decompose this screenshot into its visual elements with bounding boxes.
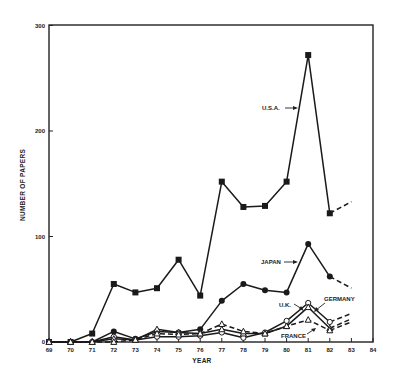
x-tick-label: 80 bbox=[283, 347, 290, 353]
x-tick-label: 81 bbox=[305, 347, 312, 353]
y-tick-label: 100 bbox=[35, 234, 46, 240]
series-usa bbox=[46, 52, 351, 345]
label-germany: GERMANY bbox=[324, 296, 355, 302]
x-tick-label: 84 bbox=[370, 347, 377, 353]
square-marker bbox=[176, 257, 182, 263]
annotation-germany: GERMANY bbox=[314, 296, 355, 312]
square-marker bbox=[219, 179, 225, 185]
open-circle-marker bbox=[327, 319, 332, 324]
line-chart: 0100200300 69707172737475767778798081828… bbox=[0, 0, 396, 380]
x-tick-label: 75 bbox=[175, 347, 182, 353]
y-tick-label: 0 bbox=[42, 339, 46, 345]
plot-frame bbox=[49, 25, 373, 342]
x-tick-label: 78 bbox=[240, 347, 247, 353]
series-layer bbox=[46, 52, 351, 345]
triangle-marker bbox=[219, 321, 225, 327]
x-tick-label: 77 bbox=[218, 347, 225, 353]
x-tick-label: 70 bbox=[67, 347, 74, 353]
x-tick-label: 74 bbox=[154, 347, 161, 353]
square-marker bbox=[132, 289, 138, 295]
square-marker bbox=[197, 293, 203, 299]
square-marker bbox=[111, 281, 117, 287]
circle-marker bbox=[262, 287, 268, 293]
triangle-marker bbox=[305, 317, 311, 323]
arrow-icon bbox=[311, 328, 316, 332]
annotation-japan: JAPAN bbox=[261, 259, 298, 265]
arrow-icon bbox=[293, 260, 298, 264]
square-marker bbox=[262, 203, 268, 209]
x-tick-label: 73 bbox=[132, 347, 139, 353]
square-marker bbox=[240, 204, 246, 210]
x-axis-title: YEAR bbox=[192, 357, 211, 364]
square-marker bbox=[284, 179, 290, 185]
circle-marker bbox=[305, 241, 311, 247]
square-marker bbox=[154, 285, 160, 291]
x-tick-label: 82 bbox=[326, 347, 333, 353]
y-axis: 0100200300 bbox=[35, 23, 53, 346]
label-usa: U.S.A. bbox=[262, 105, 280, 111]
circle-marker bbox=[111, 328, 117, 334]
x-tick-label: 69 bbox=[46, 347, 53, 353]
label-japan: JAPAN bbox=[261, 259, 281, 265]
x-tick-label: 71 bbox=[89, 347, 96, 353]
y-axis-title: NUMBER OF PAPERS bbox=[19, 149, 26, 222]
arrow-icon bbox=[293, 106, 298, 110]
x-tick-label: 72 bbox=[110, 347, 117, 353]
x-tick-label: 83 bbox=[348, 347, 355, 353]
circle-marker bbox=[240, 281, 246, 287]
annotation-usa: U.S.A. bbox=[262, 105, 298, 111]
x-tick-label: 79 bbox=[262, 347, 269, 353]
plot-border bbox=[49, 25, 373, 342]
circle-marker bbox=[327, 274, 333, 280]
x-tick-label: 76 bbox=[197, 347, 204, 353]
label-france: FRANCE bbox=[281, 333, 306, 339]
label-uk: U.K. bbox=[279, 302, 291, 308]
square-marker bbox=[305, 52, 311, 58]
square-marker bbox=[327, 210, 333, 216]
annotation-france: FRANCE bbox=[281, 328, 316, 339]
y-tick-label: 200 bbox=[35, 128, 46, 134]
circle-marker bbox=[284, 289, 290, 295]
triangle-marker bbox=[219, 326, 225, 332]
square-marker bbox=[89, 331, 95, 337]
y-tick-label: 300 bbox=[35, 23, 46, 29]
circle-marker bbox=[219, 298, 225, 304]
